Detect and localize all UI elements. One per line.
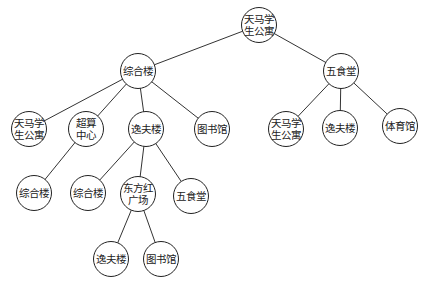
node-label: 逸夫楼 — [323, 122, 357, 134]
node-label: 天马学生公寓 — [269, 117, 303, 141]
tree-node-root: 天马学生公寓 — [241, 7, 277, 43]
node-label: 图书馆 — [195, 123, 229, 135]
tree-node: 天马学生公寓 — [11, 111, 47, 147]
node-label: 体育馆 — [383, 120, 417, 132]
node-label: 综合楼 — [71, 187, 105, 199]
edge — [138, 25, 259, 71]
node-label: 东方红广场 — [121, 182, 155, 206]
node-label: 超算中心 — [74, 117, 98, 141]
tree-node: 图书馆 — [143, 241, 179, 277]
tree-node: 超算中心 — [68, 111, 104, 147]
tree-node: 体育馆 — [382, 108, 418, 144]
node-label: 逸夫楼 — [129, 123, 163, 135]
node-label: 五食堂 — [324, 65, 358, 77]
tree-node: 逸夫楼 — [93, 241, 129, 277]
node-label: 天马学生公寓 — [242, 13, 276, 37]
tree-node: 天马学生公寓 — [268, 111, 304, 147]
node-label: 逸夫楼 — [94, 253, 128, 265]
tree-node: 逸夫楼 — [128, 111, 164, 147]
tree-node: 五食堂 — [173, 178, 209, 214]
tree-node: 综合楼 — [16, 175, 52, 211]
node-label: 五食堂 — [174, 190, 208, 202]
tree-node: 综合楼 — [120, 53, 156, 89]
tree-node: 东方红广场 — [120, 176, 156, 212]
node-label: 图书馆 — [144, 253, 178, 265]
tree-node: 逸夫楼 — [322, 110, 358, 146]
node-label: 综合楼 — [121, 65, 155, 77]
tree-node: 五食堂 — [323, 53, 359, 89]
tree-node: 综合楼 — [70, 175, 106, 211]
node-label: 综合楼 — [17, 187, 51, 199]
tree-node: 图书馆 — [194, 111, 230, 147]
node-label: 天马学生公寓 — [12, 117, 46, 141]
